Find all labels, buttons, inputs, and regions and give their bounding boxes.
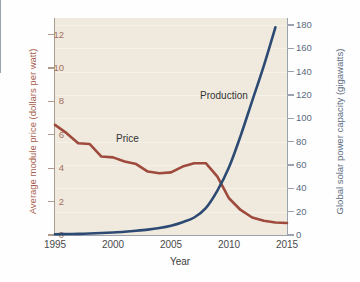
data-curves [0, 0, 360, 282]
price-line [55, 125, 287, 223]
solar-price-production-chart: 0246810120204060801001201401601801995200… [0, 0, 360, 282]
right-axis-title: Global solar power capacity (gigawatts) [334, 36, 345, 228]
left-axis-title: Average module price (dollars per watt) [27, 39, 38, 225]
series-label-production: Production [200, 90, 248, 101]
series-label-price: Price [116, 133, 139, 144]
x-axis-title: Year [0, 256, 360, 267]
production-line [55, 27, 275, 234]
